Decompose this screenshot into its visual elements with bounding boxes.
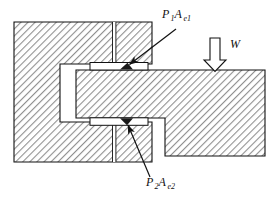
upper-seal-cavity — [90, 63, 148, 71]
lower-seal-assembly — [90, 118, 148, 126]
upper-seal-label-A-sub: e1 — [184, 14, 192, 23]
upper-seal-label-A: A — [174, 7, 183, 21]
lower-seal-label-P: P — [145, 175, 154, 189]
upper-seal-label-P: P — [161, 7, 170, 21]
diagram-canvas: P 1 A e1 P 2 A e2 W — [0, 0, 278, 199]
lower-seal-cavity — [90, 118, 148, 126]
lower-seal-label-A: A — [158, 175, 167, 189]
load-label-W: W — [230, 37, 241, 51]
upper-seal-assembly — [90, 63, 148, 71]
engineering-diagram-figure: P 1 A e1 P 2 A e2 W — [0, 0, 278, 199]
lower-seal-label-A-sub: e2 — [168, 182, 176, 191]
